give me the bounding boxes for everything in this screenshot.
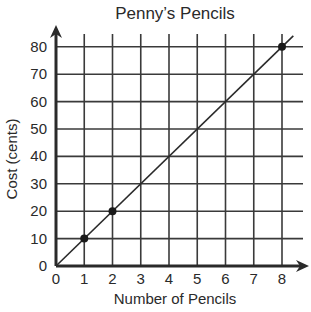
x-tick-label: 0: [52, 270, 60, 287]
series-cost: [56, 36, 293, 266]
x-axis-label: Number of Pencils: [114, 290, 237, 307]
x-tick-labels: 012345678: [52, 270, 286, 287]
grid-lines: [56, 34, 303, 266]
x-tick-label: 7: [250, 270, 258, 287]
x-tick-label: 8: [278, 270, 286, 287]
y-tick-label: 0: [39, 257, 47, 274]
x-tick-label: 5: [193, 270, 201, 287]
chart-title: Penny’s Pencils: [115, 4, 235, 23]
y-tick-label: 80: [30, 38, 47, 55]
x-tick-label: 4: [165, 270, 173, 287]
y-tick-label: 70: [30, 65, 47, 82]
x-tick-label: 6: [221, 270, 229, 287]
y-tick-label: 50: [30, 120, 47, 137]
chart: Penny’s Pencils 012345678 01020304050607…: [0, 0, 311, 312]
data-point: [80, 235, 88, 243]
y-tick-label: 10: [30, 230, 47, 247]
y-axis-label: Cost (cents): [3, 119, 20, 200]
x-tick-label: 1: [80, 270, 88, 287]
y-tick-label: 40: [30, 147, 47, 164]
y-tick-labels: 01020304050607080: [30, 38, 47, 274]
y-tick-label: 60: [30, 93, 47, 110]
x-tick-label: 3: [137, 270, 145, 287]
data-point: [109, 207, 117, 215]
y-tick-label: 30: [30, 175, 47, 192]
series-line: [56, 36, 293, 266]
data-point: [278, 43, 286, 51]
y-tick-label: 20: [30, 202, 47, 219]
x-tick-label: 2: [108, 270, 116, 287]
